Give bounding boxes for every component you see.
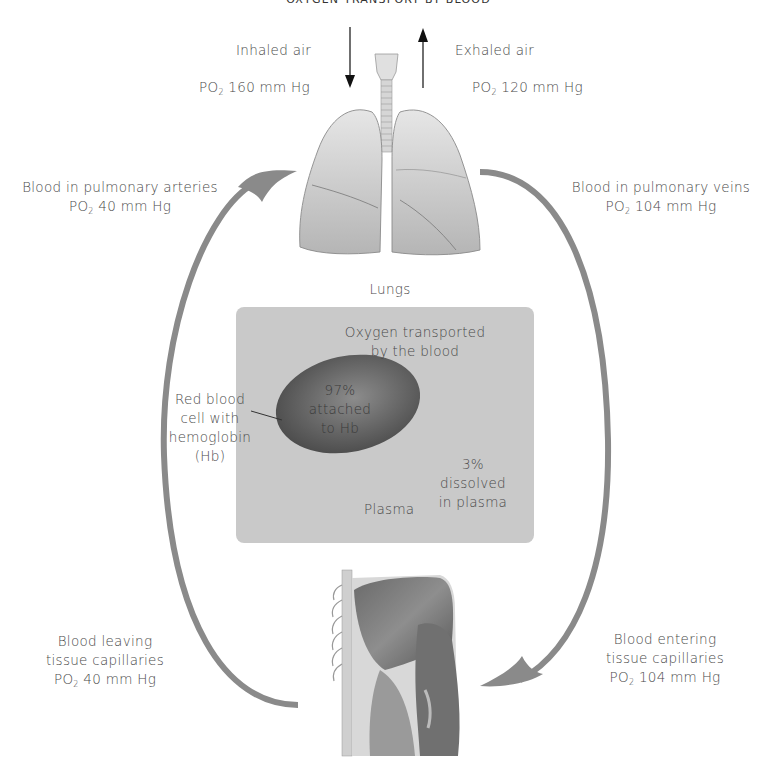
po2-subscript: 2 (218, 88, 223, 97)
po2-prefix: PO (472, 79, 491, 95)
inhaled-po2-label: PO2 160 mm Hg (199, 78, 310, 102)
exhaled-air-label: Exhaled air (455, 41, 534, 60)
po2-value: 104 mm Hg (635, 198, 717, 214)
po2-line: PO2 40 mm Hg (0, 197, 240, 221)
label-line: Blood entering (585, 630, 745, 649)
exhaled-po2-label: PO2 120 mm Hg (472, 78, 583, 102)
leaving-tissue-label: Blood leaving tissue capillaries PO2 40 … (30, 632, 180, 694)
label-line: Blood in pulmonary arteries (0, 178, 240, 197)
po2-line: PO2 104 mm Hg (585, 668, 745, 692)
po2-value: 40 mm Hg (83, 671, 156, 687)
label-line: (Hb) (160, 447, 260, 466)
po2-prefix: PO (199, 79, 218, 95)
plasma-fraction-label: 3% dissolved in plasma (428, 455, 518, 512)
entering-tissue-label: Blood entering tissue capillaries PO2 10… (585, 630, 745, 692)
po2-value: 104 mm Hg (639, 669, 721, 685)
label-line: tissue capillaries (585, 649, 745, 668)
po2-subscript: 2 (491, 88, 496, 97)
heading-line: by the blood (300, 342, 530, 361)
po2-prefix: PO (54, 671, 73, 687)
lungs-label: Lungs (340, 280, 440, 299)
plasma-percent: 3% (428, 455, 518, 474)
po2-subscript: 2 (629, 678, 634, 687)
pulmonary-veins-label: Blood in pulmonary veins PO2 104 mm Hg (556, 178, 766, 221)
label-line: dissolved (428, 474, 518, 493)
po2-prefix: PO (69, 198, 88, 214)
inhaled-air-label: Inhaled air (236, 41, 311, 60)
po2-subscript: 2 (73, 680, 78, 689)
pulmonary-arteries-label: Blood in pulmonary arteries PO2 40 mm Hg (0, 178, 240, 221)
label-line: Red blood (160, 390, 260, 409)
transport-heading: Oxygen transported by the blood (300, 323, 530, 361)
label-line: in plasma (428, 493, 518, 512)
rbc-label: Red blood cell with hemoglobin (Hb) (160, 390, 260, 466)
po2-value: 160 mm Hg (228, 79, 310, 95)
po2-line: PO2 40 mm Hg (30, 670, 180, 694)
label-line: Blood leaving (30, 632, 180, 651)
po2-subscript: 2 (88, 207, 93, 216)
label-line: attached (300, 400, 380, 419)
po2-line: PO2 104 mm Hg (556, 197, 766, 221)
label-line: to Hb (300, 419, 380, 438)
label-line: hemoglobin (160, 428, 260, 447)
label-line: tissue capillaries (30, 651, 180, 670)
po2-subscript: 2 (625, 207, 630, 216)
po2-value: 40 mm Hg (98, 198, 171, 214)
po2-value: 120 mm Hg (501, 79, 583, 95)
hb-fraction-label: 97% attached to Hb (300, 381, 380, 438)
hb-percent: 97% (300, 381, 380, 400)
po2-prefix: PO (606, 198, 625, 214)
label-line: cell with (160, 409, 260, 428)
po2-prefix: PO (610, 669, 629, 685)
label-line: Blood in pulmonary veins (556, 178, 766, 197)
heading-line: Oxygen transported (300, 323, 530, 342)
plasma-label: Plasma (364, 500, 414, 519)
